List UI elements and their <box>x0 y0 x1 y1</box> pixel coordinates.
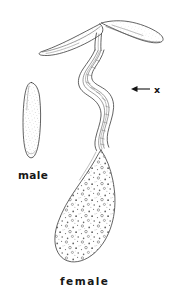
figure-canvas: male <box>0 0 169 291</box>
female-egg-texture <box>52 146 120 266</box>
figure-root: male <box>0 0 169 291</box>
female-specimen <box>36 18 168 266</box>
anterior-wing-right <box>98 18 168 48</box>
female-label: female <box>60 275 109 287</box>
marker-x-label: x <box>154 84 160 95</box>
male-specimen <box>20 80 44 162</box>
anterior-wing-left <box>36 20 108 60</box>
neck-junction-right <box>101 34 102 51</box>
male-label: male <box>18 169 48 181</box>
annotation-marker-x <box>131 86 150 92</box>
left-arrow-icon <box>131 86 138 92</box>
neck-wall-inner-right <box>87 51 109 149</box>
